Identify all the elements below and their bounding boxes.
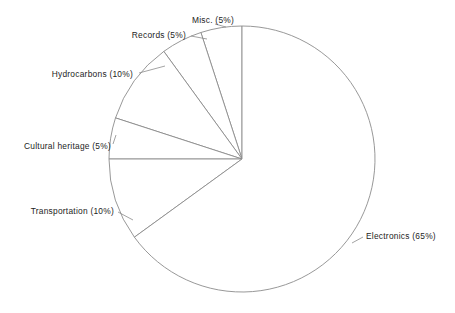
pie-slice-label: Records (5%): [132, 31, 186, 39]
pie-slice-leader-line: [352, 237, 363, 243]
pie-slice-label: Hydrocarbons (10%): [52, 70, 133, 78]
pie-slice-label: Transportation (10%): [31, 207, 114, 215]
pie-chart-canvas: [0, 0, 455, 313]
pie-slice-label: Cultural heritage (5%): [24, 142, 111, 150]
pie-slices-group: [109, 26, 375, 292]
pie-slice-label: Misc. (5%): [192, 16, 234, 24]
pie-chart-figure: Misc. (5%)Records (5%)Hydrocarbons (10%)…: [0, 0, 455, 313]
pie-slice-label: Electronics (65%): [366, 232, 436, 240]
